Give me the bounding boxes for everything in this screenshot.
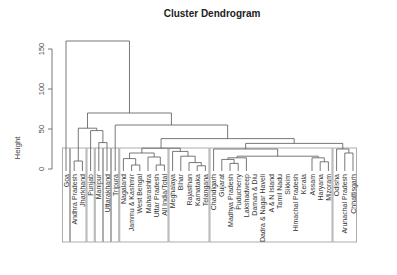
leaf-label: Dadra & Nagar Haveli (259, 174, 267, 243)
y-tick-label: 50 (37, 125, 46, 133)
leaf-label: Meghalaya (169, 174, 177, 208)
merge-link (337, 149, 349, 171)
leaf-label: Madhya Pradesh (227, 174, 235, 227)
leaf-label: Chhattisgarh (350, 174, 358, 214)
y-tick-label: 100 (37, 83, 46, 96)
leaf-label: Jharkhand (79, 174, 86, 207)
merge-link (230, 163, 238, 171)
leaf-label: Assam (309, 174, 316, 196)
merge-link (345, 153, 353, 171)
dendrogram-tree (66, 41, 353, 171)
y-axis-label: Height (13, 136, 22, 160)
leaf-label: Jammu & Kashmir (128, 173, 135, 231)
merge-link (142, 148, 180, 153)
leaf-label: Uttarakhand (104, 174, 111, 212)
leaf-label: West Bengal (136, 174, 144, 214)
leaf-label: Daman & Diu (251, 174, 258, 216)
merge-link (320, 162, 328, 171)
leaf-label: Goa (63, 174, 70, 187)
leaf-label: Lakshadweep (243, 174, 251, 217)
merge-link (132, 165, 140, 171)
leaf-label: Arunachal Pradesh (341, 174, 348, 234)
leaf-label: Sikkim (284, 174, 291, 195)
merge-link (237, 156, 318, 158)
dendrogram-chart: Cluster Dendrogram 050100150 Height GoaA… (0, 0, 397, 275)
leaf-label: Mizoram (325, 174, 332, 201)
merge-link (181, 156, 195, 171)
merge-link (214, 149, 278, 171)
merge-link (173, 151, 188, 171)
y-axis: 050100150 (37, 43, 52, 171)
merge-link (189, 163, 201, 171)
merge-link (156, 165, 164, 171)
leaf-label: Manipur (95, 173, 103, 199)
leaf-label: Tripura (112, 174, 120, 196)
leaf-label: Kerala (300, 174, 307, 194)
leaf-label: Andhra Pradesh (71, 174, 78, 225)
merge-link (222, 159, 234, 171)
merge-link (99, 143, 107, 171)
leaf-label: Tamil Nadu (276, 174, 283, 209)
leaf-label: Haryana (317, 174, 325, 201)
leaf-label: Telangana (202, 174, 210, 206)
leaf-label: A & N Island (268, 174, 275, 213)
merge-link (88, 113, 172, 128)
leaf-label: Karnataka (194, 174, 201, 206)
leaf-label: Gujarat (218, 174, 226, 197)
merge-link (130, 153, 155, 159)
leaf-label: Chandigarh (210, 174, 218, 210)
leaf-label: All India/Total (161, 174, 168, 216)
leaf-label: Punjab (87, 174, 95, 196)
merge-link (148, 157, 160, 171)
leaf-label: Himachal Pradesh (292, 174, 299, 231)
y-tick-label: 150 (37, 43, 46, 56)
leaf-label: Maharashtra (145, 174, 152, 213)
merge-link (197, 166, 205, 171)
leaf-label: Nagaland (120, 174, 128, 204)
merge-link (74, 161, 82, 171)
merge-link (91, 131, 103, 171)
chart-title: Cluster Dendrogram (164, 8, 261, 19)
leaf-label: Puducherry (235, 174, 243, 210)
leaf-label: Bihar (177, 173, 184, 190)
leaf-label: Odisha (333, 174, 340, 196)
y-tick-label: 0 (37, 167, 46, 171)
leaf-label: Uttar Pradesh (153, 174, 160, 217)
leaf-label: Rajasthan (186, 174, 194, 206)
merge-link (312, 158, 324, 171)
